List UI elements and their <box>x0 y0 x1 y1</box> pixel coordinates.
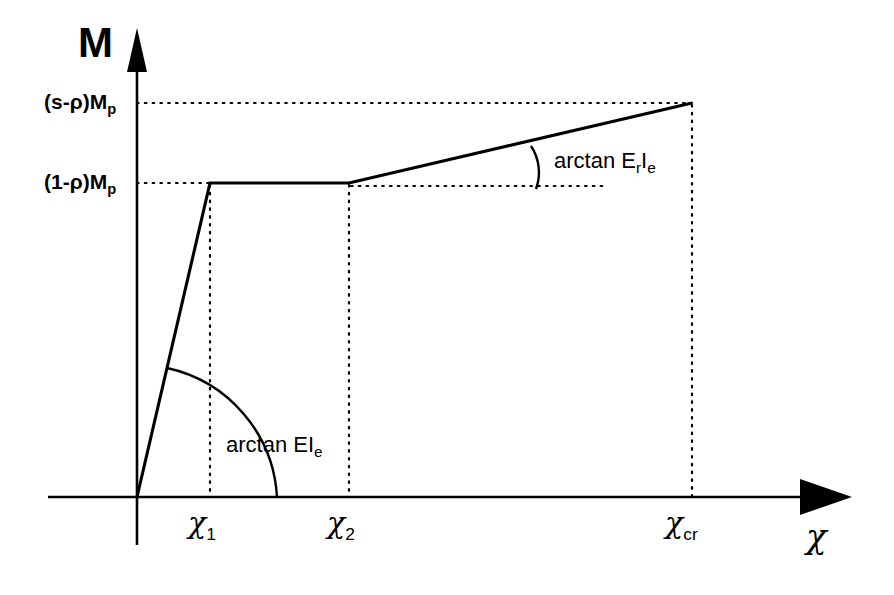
y-axis-arrowhead <box>127 28 147 72</box>
angle-arc-strain-hardening <box>531 146 539 189</box>
x-tick-chi2-symbol: χ <box>327 505 345 540</box>
annotation-hardening-sub2: e <box>647 159 656 176</box>
diagram-canvas <box>0 0 894 595</box>
y-tick-lower-sub: p <box>107 181 116 197</box>
annotation-hardening-prefix: arctan E <box>554 148 636 173</box>
x-tick-chi1-symbol: χ <box>188 505 206 540</box>
annotation-arctan-strain-hardening: arctan ErIe <box>554 150 656 172</box>
x-tick-chicr-sub: cr <box>683 524 698 544</box>
x-tick-chi1-sub: 1 <box>206 524 216 544</box>
annotation-elastic-sub: e <box>314 443 323 460</box>
annotation-hardening-sub1: r <box>636 159 641 176</box>
y-tick-upper-main: (s-ρ)M <box>44 90 107 113</box>
x-tick-chicr-symbol: χ <box>665 505 683 540</box>
x-tick-label-chi2: χ2 <box>327 508 355 538</box>
y-axis-label: M <box>78 22 113 64</box>
y-tick-upper-sub: p <box>107 101 116 117</box>
moment-curvature-diagram: M χ (s-ρ)Mp (1-ρ)Mp χ1 χ2 χcr arctan EIe… <box>0 0 894 595</box>
annotation-arctan-elastic: arctan EIe <box>226 434 323 456</box>
x-tick-chi2-sub: 2 <box>345 524 355 544</box>
x-axis-label: χ <box>806 519 827 553</box>
x-axis-arrowhead <box>800 479 852 515</box>
y-tick-lower-main: (1-ρ)M <box>44 170 107 193</box>
x-tick-label-chi1: χ1 <box>188 508 216 538</box>
x-tick-label-chicr: χcr <box>665 508 698 538</box>
annotation-elastic-prefix: arctan EI <box>226 432 314 457</box>
y-tick-label-lower: (1-ρ)Mp <box>44 171 116 192</box>
y-tick-label-upper: (s-ρ)Mp <box>44 91 116 112</box>
